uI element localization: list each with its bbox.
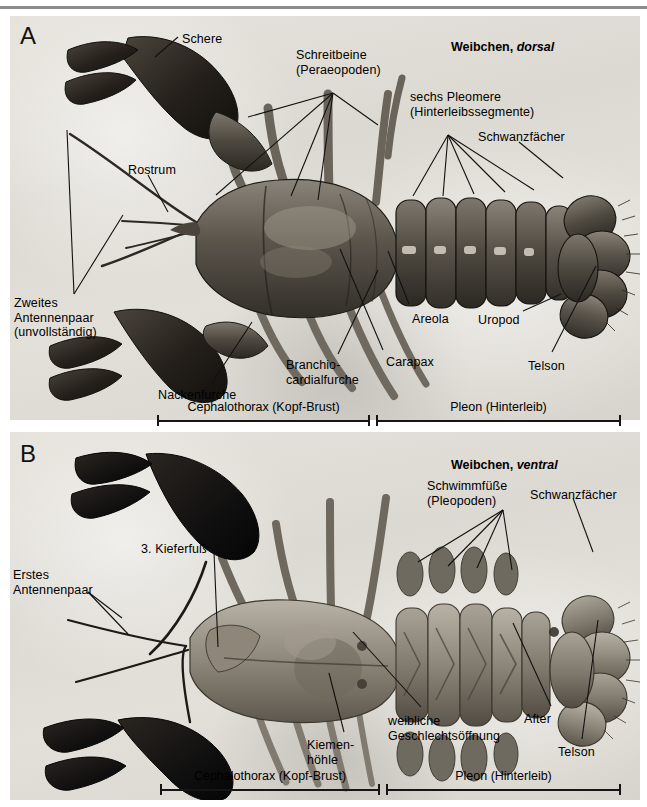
- extent-bar-line: [376, 420, 621, 422]
- label-b-kieferfuss3: 3. Kieferfuß: [141, 542, 207, 557]
- label-b-after: After: [524, 712, 551, 727]
- extent-bar-tick-start: [157, 415, 159, 426]
- extent-bar-tick-end: [619, 415, 621, 426]
- extent-bar-tick-start: [386, 784, 388, 795]
- label-b-telson: Telson: [558, 745, 595, 760]
- label-a-branchio: Branchio- cardialfurche: [286, 358, 359, 387]
- panel-a-header-view: dorsal: [517, 40, 555, 54]
- label-a-telson: Telson: [528, 359, 565, 374]
- label-a-rostrum: Rostrum: [128, 163, 176, 178]
- extent-bar-tick-start: [376, 415, 378, 426]
- label-b-kiemenhoehle: Kiemen- höhle: [307, 738, 354, 767]
- extent-bar-line: [157, 420, 370, 422]
- extent-bar-line: [386, 789, 621, 791]
- figure-root: A B Weibchen, dorsal Weibchen, ventral S…: [0, 0, 647, 807]
- panel-a-header-sex: Weibchen,: [451, 40, 517, 54]
- label-b-geschlecht: weibliche Geschlechtsöffnung: [388, 714, 500, 743]
- label-b-schwanzfaecher: Schwanzfächer: [530, 488, 617, 503]
- label-a-schwanzfaecher: Schwanzfächer: [478, 130, 565, 145]
- panel-b-header-sex: Weibchen,: [451, 458, 517, 472]
- panel-letter-b: B: [20, 440, 36, 468]
- label-a-uropod: Uropod: [478, 313, 520, 328]
- label-b-antennenpaar1: Erstes Antennenpaar: [13, 568, 93, 597]
- panel-a-header: Weibchen, dorsal: [437, 26, 554, 68]
- extent-bar-caption-b-0: Cephalothorax (Kopf-Brust): [160, 769, 380, 783]
- label-a-schreitbeine: Schreitbeine (Peraeopoden): [296, 48, 381, 77]
- label-a-pleomere: sechs Pleomere (Hinterleibssegmente): [410, 90, 534, 119]
- extent-bar-tick-end: [619, 784, 621, 795]
- label-a-antennenpaar2: Zweites Antennenpaar (unvollständig): [14, 296, 97, 340]
- extent-bar-tick-end: [378, 784, 380, 795]
- extent-bar-caption-a-1: Pleon (Hinterleib): [376, 400, 621, 414]
- panel-letter-a: A: [20, 22, 36, 50]
- label-a-schere: Schere: [182, 32, 222, 47]
- top-rule-divider: [0, 6, 647, 9]
- extent-bar-line: [160, 789, 380, 791]
- extent-bar-tick-start: [160, 784, 162, 795]
- label-b-schwimmfuesse: Schwimmfüße (Pleopoden): [427, 479, 507, 508]
- extent-bar-tick-end: [368, 415, 370, 426]
- label-a-carapax: Carapax: [386, 355, 434, 370]
- extent-bar-caption-b-1: Pleon (Hinterleib): [386, 769, 621, 783]
- panel-b-header-view: ventral: [517, 458, 558, 472]
- extent-bar-caption-a-0: Cephalothorax (Kopf-Brust): [157, 400, 370, 414]
- label-a-areola: Areola: [412, 312, 449, 327]
